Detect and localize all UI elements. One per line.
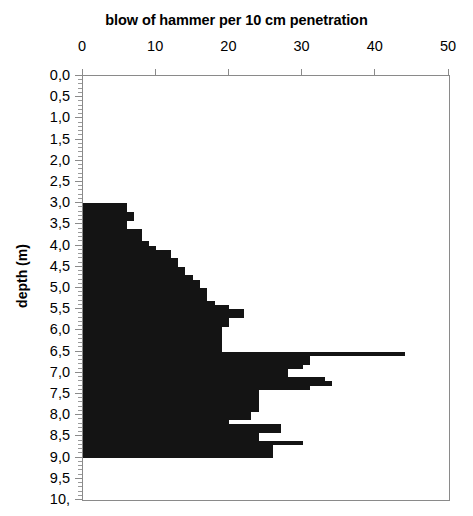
y-axis-tick-label: 7,0: [26, 365, 70, 379]
y-axis-tick-label: 0,0: [26, 68, 70, 82]
bars-layer: [83, 76, 449, 500]
y-axis-tick-label: 7,5: [26, 386, 70, 400]
x-axis-tick-label: 30: [282, 38, 322, 54]
y-axis-tick-label: 5,0: [26, 280, 70, 294]
y-axis-tick-label: 9,0: [26, 450, 70, 464]
y-axis-tick-label: 6,5: [26, 344, 70, 358]
y-axis-tick-label: 8,0: [26, 407, 70, 421]
bar: [83, 453, 273, 458]
y-axis-tick-label: 6,0: [26, 322, 70, 336]
y-axis-tick-label: 1,0: [26, 110, 70, 124]
y-axis-tick-label: 2,0: [26, 153, 70, 167]
y-axis-tick-label: 2,5: [26, 174, 70, 188]
x-axis-tick-label: 40: [355, 38, 395, 54]
spt-blowcount-chart: blow of hammer per 10 cm penetration 010…: [0, 0, 473, 516]
y-axis-tick-label: 4,5: [26, 259, 70, 273]
x-axis-tick-label: 20: [208, 38, 248, 54]
y-axis-tick-label: 3,0: [26, 195, 70, 209]
y-axis-tick-label: 5,5: [26, 301, 70, 315]
chart-title: blow of hammer per 10 cm penetration: [0, 12, 473, 28]
y-axis-tick-label: 8,5: [26, 428, 70, 442]
y-axis-tick-label: 10,: [26, 492, 70, 506]
y-axis-tick-label: 9,5: [26, 471, 70, 485]
y-axis-tick-label: 0,5: [26, 89, 70, 103]
x-axis-tick-label: 10: [135, 38, 175, 54]
y-axis-tick-label: 4,0: [26, 238, 70, 252]
y-axis-tick-label: 1,5: [26, 132, 70, 146]
plot-area: [82, 75, 450, 501]
y-axis-tick-label: 3,5: [26, 216, 70, 230]
y-axis-title: depth (m): [14, 221, 30, 331]
x-axis-tick-label: 50: [428, 38, 468, 54]
x-axis-tick-label: 0: [62, 38, 102, 54]
